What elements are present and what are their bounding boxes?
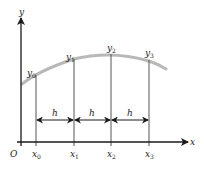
ordinate-label-y2: y2 xyxy=(106,43,116,54)
spacing-label-0: h xyxy=(52,108,58,118)
spacing-label-1: h xyxy=(89,108,95,118)
tick-label-x1: x1 xyxy=(70,149,79,160)
tick-label-x2: x2 xyxy=(107,149,116,160)
x-axis-label: x xyxy=(190,137,195,147)
diagram-canvas: h h h y x O y0 y1 y2 y3 x0 x1 x2 x3 xyxy=(0,0,204,170)
tick-label-x3: x3 xyxy=(145,149,154,160)
origin-label: O xyxy=(10,149,18,159)
ordinate-label-y0: y0 xyxy=(26,68,36,79)
tick-label-x0: x0 xyxy=(32,149,41,160)
curve xyxy=(22,55,166,84)
ordinate-label-y3: y3 xyxy=(144,48,154,59)
ordinate-label-y1: y1 xyxy=(65,52,75,63)
y-axis-label: y xyxy=(18,7,25,17)
spacing-label-2: h xyxy=(127,108,133,118)
